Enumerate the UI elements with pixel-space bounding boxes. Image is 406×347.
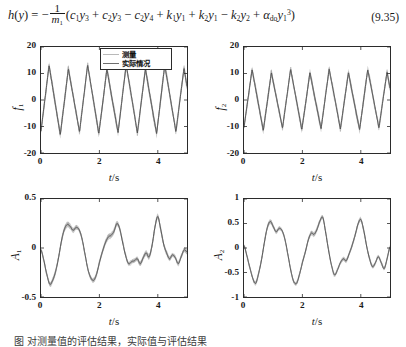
true-value-line xyxy=(41,65,187,134)
plot-area-A2 xyxy=(243,198,391,298)
measured-sample-trace xyxy=(244,67,390,130)
plot-area-f2 xyxy=(243,46,391,154)
chart-panel-f1: f1 测量实际情况 t/s -20-1001020024 xyxy=(0,38,200,188)
x-tick-label: 4 xyxy=(144,300,172,310)
x-tick-label: 2 xyxy=(85,300,113,310)
measured-sample-trace xyxy=(41,66,187,135)
chart-panel-f2: f2 t/s -20-1001020024 xyxy=(203,38,403,188)
x-tick-label: 2 xyxy=(288,156,316,166)
y-tick-label: 1 xyxy=(204,192,239,202)
legend-label: 实际情况 xyxy=(122,59,150,68)
y-tick-label: 20 xyxy=(1,40,36,50)
x-tick-label: 0 xyxy=(229,156,257,166)
x-tick-label: 0 xyxy=(26,300,54,310)
y-tick-label: 0 xyxy=(204,242,239,252)
legend-label: 测量 xyxy=(122,50,136,59)
equation-terms: c1y3 + c2y3 − c2y4 + k1y1 + k2y1 − k2y2 … xyxy=(70,8,291,22)
x-tick-label: 4 xyxy=(347,156,375,166)
equation-term: c2y4 xyxy=(134,8,153,22)
measured-noise-band xyxy=(244,215,390,286)
equation-operator: + xyxy=(250,8,263,22)
measured-sample-trace xyxy=(41,63,187,136)
equation-expression: h(y) = −1m1(c1y3 + c2y3 − c2y4 + k1y1 + … xyxy=(8,4,295,29)
chart-panel-A1: A1 t/s -0.500.5024 xyxy=(0,190,200,333)
x-tick-label: 0 xyxy=(229,300,257,310)
measured-sample-trace xyxy=(41,63,187,135)
measured-noise-band xyxy=(41,61,187,138)
y-tick-label: 10 xyxy=(204,67,239,77)
y-tick-label: 0 xyxy=(1,94,36,104)
x-axis-label-A1: t/s xyxy=(74,315,154,327)
equation-number: (9.35) xyxy=(371,11,399,23)
chart-canvas-f2 xyxy=(244,47,390,153)
measured-sample-trace xyxy=(244,67,390,131)
legend-entry[interactable]: 测量 xyxy=(103,50,168,59)
x-tick-label: 2 xyxy=(85,156,113,166)
measured-sample-trace xyxy=(244,216,390,284)
legend-f1: 测量实际情况 xyxy=(100,48,172,70)
equation-term: k1y1 xyxy=(167,8,186,22)
equation-operator: − xyxy=(218,8,231,22)
measured-sample-trace xyxy=(244,68,390,132)
x-tick-label: 2 xyxy=(288,300,316,310)
equation-row: h(y) = −1m1(c1y3 + c2y3 − c2y4 + k1y1 + … xyxy=(0,0,406,38)
y-tick-label: -0.5 xyxy=(204,267,239,277)
y-tick-label: 10 xyxy=(1,67,36,77)
equation-operator: + xyxy=(89,8,102,22)
figure-caption: 图 对测量值的评估结果，实际值与评估结果 xyxy=(0,333,406,347)
equation-term: αdoy13 xyxy=(263,8,291,22)
plot-area-A1 xyxy=(40,198,188,298)
figure-caption-text: 图 对测量值的评估结果，实际值与评估结果 xyxy=(14,333,207,347)
equation-term: c1y3 xyxy=(70,8,89,22)
y-tick-label: -10 xyxy=(1,121,36,131)
equation-term: k2y2 xyxy=(231,8,250,22)
equation-operator: + xyxy=(185,8,198,22)
measured-sample-trace xyxy=(41,63,187,134)
measured-sample-trace xyxy=(41,63,187,134)
figure-panel-grid: f1 测量实际情况 t/s -20-1001020024 f2 t/s -20-… xyxy=(0,38,406,333)
x-tick-label: 4 xyxy=(144,156,172,166)
chart-panel-A2: A2 t/s -1-0.500.51024 xyxy=(203,190,403,333)
x-axis-label-f2: t/s xyxy=(277,171,357,183)
equation-term: c2y3 xyxy=(102,8,121,22)
true-value-line xyxy=(244,69,390,130)
equation-operator: − xyxy=(121,8,134,22)
measured-sample-trace xyxy=(244,70,390,131)
y-tick-label: 0.5 xyxy=(1,192,36,202)
fraction-denominator: m1 xyxy=(50,13,65,28)
fraction-numerator: 1 xyxy=(50,3,65,13)
y-tick-label: -10 xyxy=(204,121,239,131)
chart-canvas-A2 xyxy=(244,199,390,297)
y-tick-label: 20 xyxy=(204,40,239,50)
measured-sample-trace xyxy=(244,216,390,285)
equation-term: k2y1 xyxy=(199,8,218,22)
measured-noise-band xyxy=(244,66,390,134)
x-tick-label: 4 xyxy=(347,300,375,310)
legend-color-swatch xyxy=(103,54,119,55)
measured-sample-trace xyxy=(244,216,390,284)
x-axis-label-f1: t/s xyxy=(74,171,154,183)
legend-color-swatch xyxy=(103,63,119,64)
measured-sample-trace xyxy=(244,215,390,285)
y-tick-label: 0 xyxy=(204,94,239,104)
y-tick-label: 0 xyxy=(1,242,36,252)
chart-canvas-A1 xyxy=(41,199,187,297)
x-tick-label: 0 xyxy=(26,156,54,166)
legend-entry[interactable]: 实际情况 xyxy=(103,59,168,68)
y-tick-label: 0.5 xyxy=(204,217,239,227)
measured-sample-trace xyxy=(244,67,390,130)
equation-operator: + xyxy=(153,8,166,22)
equation-fraction: 1m1 xyxy=(50,3,65,28)
y-axis-label-A1: A1 xyxy=(9,235,23,275)
x-axis-label-A2: t/s xyxy=(277,315,357,327)
